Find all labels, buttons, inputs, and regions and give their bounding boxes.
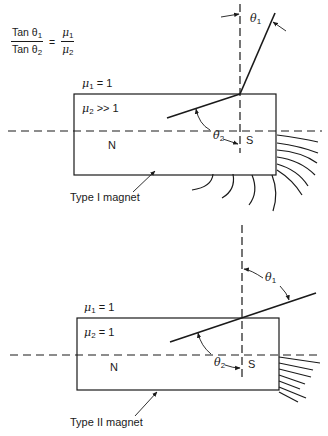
- type2-theta2-label: θ2: [214, 357, 225, 370]
- mu-value: >> 1: [94, 102, 119, 114]
- type1-mu2-label: μ2 >> 1: [82, 103, 119, 116]
- theta-sub: 1: [257, 17, 261, 26]
- type2-magnet-group: [10, 225, 322, 416]
- type1-south-label: S: [246, 135, 253, 146]
- mu-value: = 1: [96, 326, 115, 338]
- formula-den-right: μ: [62, 43, 69, 55]
- type2-north-label: N: [110, 362, 118, 373]
- type1-theta2-label: θ2: [213, 130, 224, 143]
- formula-num-right-sub: 1: [69, 31, 73, 40]
- theta-symbol: θ: [213, 129, 220, 142]
- tangent-law-formula: Tan θ1 Tan θ2 = μ1 μ2: [11, 26, 74, 57]
- theta-sub: 2: [221, 361, 225, 370]
- formula-num-left: Tan θ: [12, 26, 38, 38]
- mu-value: = 1: [96, 301, 115, 313]
- type1-north-label: N: [108, 140, 116, 151]
- type2-theta1-label: θ1: [265, 272, 276, 285]
- type2-south-label: S: [248, 359, 255, 370]
- theta-sub: 2: [220, 134, 224, 143]
- theta-sub: 1: [272, 276, 276, 285]
- theta-symbol: θ: [265, 271, 272, 284]
- formula-num-right: μ: [62, 26, 69, 38]
- type1-theta1-label: θ1: [250, 13, 261, 26]
- theta-symbol: θ: [214, 356, 221, 369]
- type2-mu1-label: μ1 = 1: [84, 302, 114, 315]
- type1-caption: Type I magnet: [70, 192, 140, 203]
- theta-symbol: θ: [250, 12, 257, 25]
- mu-value: = 1: [94, 77, 113, 89]
- type2-mu2-label: μ2 = 1: [84, 327, 114, 340]
- type2-caption: Type II magnet: [70, 417, 143, 428]
- formula-den-left-sub: 2: [38, 48, 42, 57]
- formula-den-right-sub: 2: [69, 48, 73, 57]
- refraction-diagram: [0, 0, 328, 436]
- formula-left-fraction: Tan θ1 Tan θ2: [11, 26, 43, 57]
- type1-field-line-inside: [167, 94, 240, 118]
- type1-mu1-label: μ1 = 1: [82, 78, 112, 91]
- formula-right-fraction: μ1 μ2: [61, 26, 74, 57]
- formula-den-left: Tan θ: [12, 43, 38, 55]
- formula-num-left-sub: 1: [38, 31, 42, 40]
- formula-equals: =: [49, 36, 55, 48]
